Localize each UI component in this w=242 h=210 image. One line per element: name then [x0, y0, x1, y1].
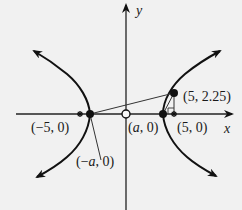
point-5-2.25	[170, 89, 178, 97]
asterisk-neg5	[77, 111, 83, 117]
label-neg-a: (−a, 0)	[76, 154, 115, 170]
asterisk-pos5	[171, 111, 177, 117]
label-pos-a: (a, 0)	[128, 120, 159, 136]
label-pos5: (5, 0)	[177, 120, 208, 136]
label-neg5: (−5, 0)	[31, 120, 70, 136]
hyperbola-right-branch-upper	[163, 51, 220, 114]
point-pos-a	[159, 110, 167, 118]
y-axis-label: y	[134, 3, 143, 18]
origin-open-circle	[122, 110, 130, 118]
hyperbola-left-branch-upper	[34, 51, 90, 114]
point-neg-a	[86, 110, 94, 118]
x-axis-label: x	[223, 121, 231, 136]
label-point-5-2.25: (5, 2.25)	[183, 89, 231, 105]
hyperbola-diagram: y x (5, 2.25) (−5, 0) (5, 0) (a, 0) (−a,…	[0, 0, 242, 210]
